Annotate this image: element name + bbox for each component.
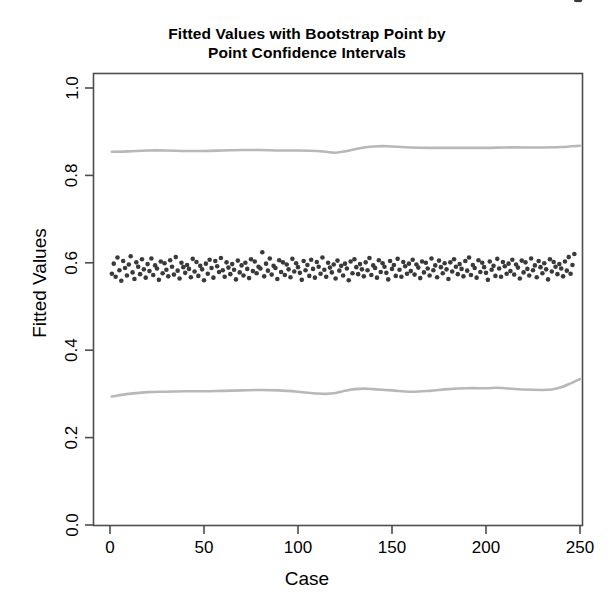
data-point	[269, 272, 274, 277]
data-point	[207, 257, 212, 262]
data-point	[110, 271, 115, 276]
data-point	[469, 273, 474, 278]
data-point	[452, 257, 457, 262]
data-point	[570, 263, 575, 268]
data-point	[461, 274, 466, 279]
data-point	[495, 257, 500, 262]
data-point	[499, 274, 504, 279]
data-point	[328, 265, 333, 270]
data-point	[320, 255, 325, 260]
data-point	[322, 267, 327, 272]
data-point	[486, 278, 491, 283]
data-point	[264, 261, 269, 266]
x-tick-label: 200	[472, 538, 500, 557]
data-point	[375, 275, 380, 280]
data-point	[324, 274, 329, 279]
data-point	[113, 274, 118, 279]
data-point	[401, 260, 406, 265]
data-point	[431, 268, 436, 273]
data-point	[493, 274, 498, 279]
data-point	[301, 259, 306, 264]
data-point	[119, 278, 124, 283]
data-point	[192, 269, 197, 274]
data-point	[395, 257, 400, 262]
data-point	[551, 260, 556, 265]
data-point	[346, 278, 351, 283]
data-point	[288, 275, 293, 280]
data-point	[467, 255, 472, 260]
data-point	[429, 256, 434, 261]
data-point	[245, 267, 250, 272]
confidence-line	[112, 146, 580, 153]
data-point	[298, 271, 303, 276]
data-point	[151, 273, 156, 278]
data-point	[566, 255, 571, 260]
data-point	[174, 255, 179, 260]
data-point	[512, 272, 517, 277]
data-point	[117, 268, 122, 273]
data-point	[204, 261, 209, 266]
data-point	[189, 275, 194, 280]
data-point	[134, 260, 139, 265]
data-point	[123, 266, 128, 271]
data-point	[190, 257, 195, 262]
data-point	[510, 257, 515, 262]
data-point	[318, 271, 323, 276]
data-point	[516, 265, 521, 270]
data-point	[525, 267, 530, 272]
x-tick-label: 50	[195, 538, 214, 557]
data-point	[239, 263, 244, 268]
data-point	[356, 272, 361, 277]
data-point	[369, 273, 374, 278]
data-point	[487, 259, 492, 264]
data-point	[138, 272, 143, 277]
data-point	[550, 269, 555, 274]
data-point	[183, 271, 188, 276]
y-tick-label: 0.4	[63, 338, 82, 362]
data-point	[482, 265, 487, 270]
data-point	[236, 258, 241, 263]
data-point	[405, 271, 410, 276]
y-tick-label: 0.6	[63, 251, 82, 275]
data-point	[350, 271, 355, 276]
data-point	[536, 259, 541, 264]
data-point	[508, 269, 513, 274]
y-tick-label: 0.8	[63, 164, 82, 188]
confidence-line	[112, 379, 580, 396]
data-point	[418, 276, 423, 281]
data-point	[215, 264, 220, 269]
data-point	[454, 264, 459, 269]
data-point	[149, 256, 154, 261]
data-point	[200, 267, 205, 272]
data-point	[121, 259, 126, 264]
data-point	[177, 276, 182, 281]
data-point	[279, 270, 284, 275]
data-point	[258, 266, 263, 271]
data-point	[307, 274, 312, 279]
scatter-plot-canvas: 0.00.20.40.60.81.0 050100150200250	[0, 0, 614, 607]
data-point	[555, 272, 560, 277]
data-point	[316, 264, 321, 269]
data-point	[362, 274, 367, 279]
data-point	[331, 262, 336, 267]
data-point	[433, 263, 438, 268]
data-point	[393, 274, 398, 279]
data-point	[275, 277, 280, 282]
data-point	[478, 270, 483, 275]
data-point	[561, 274, 566, 279]
data-point	[568, 271, 573, 276]
data-point	[211, 275, 216, 280]
data-point	[352, 257, 357, 262]
data-point	[222, 274, 227, 279]
data-point	[534, 275, 539, 280]
data-point	[437, 258, 442, 263]
data-point	[335, 258, 340, 263]
data-point	[527, 273, 532, 278]
data-point	[472, 266, 477, 271]
data-point	[115, 255, 120, 260]
data-point	[268, 256, 273, 261]
data-point	[456, 272, 461, 277]
data-point	[386, 277, 391, 282]
data-point	[187, 267, 192, 272]
data-point	[260, 250, 265, 255]
